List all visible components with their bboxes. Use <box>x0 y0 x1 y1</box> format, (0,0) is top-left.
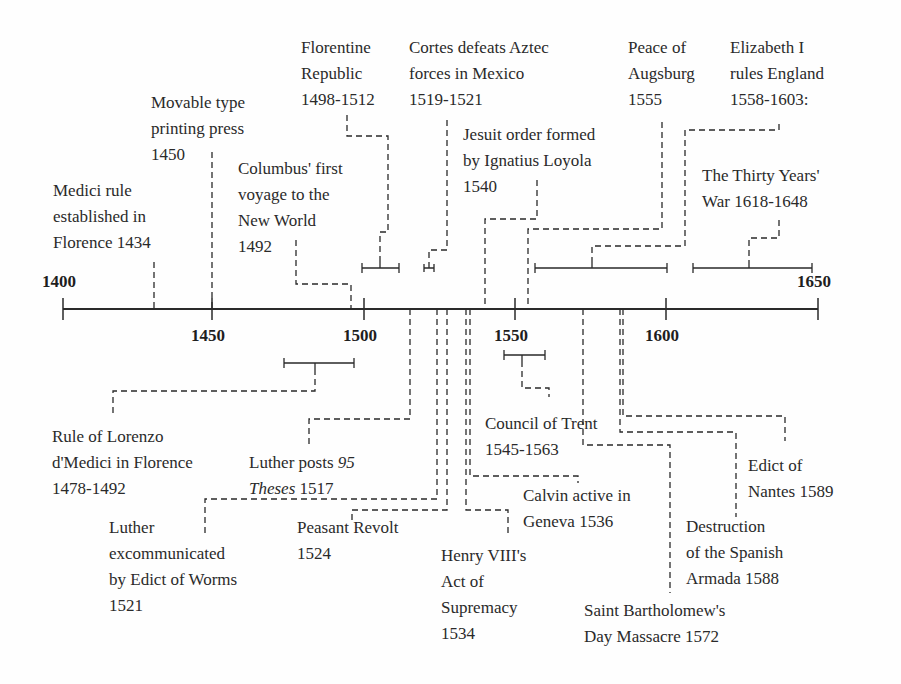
label-line: forces in Mexico <box>409 61 549 87</box>
label-line: Geneva 1536 <box>523 509 631 535</box>
label-line: 1492 <box>238 234 343 260</box>
event-label-cortes: Cortes defeats Aztec forces in Mexico 15… <box>409 35 549 113</box>
label-line: Jesuit order formed <box>463 122 595 148</box>
label-line: Armada 1588 <box>686 566 783 592</box>
label-line: 1545-1563 <box>485 437 597 463</box>
label-line: Supremacy <box>441 595 526 621</box>
label-line: Luther posts 95 <box>249 450 355 476</box>
label-line: printing press <box>151 116 245 142</box>
event-label-edict-of-worms: Luther excommunicated by Edict of Worms … <box>109 515 237 619</box>
label-line: Elizabeth I <box>730 35 824 61</box>
label-line: Edict of <box>748 453 833 479</box>
label-line: by Ignatius Loyola <box>463 148 595 174</box>
label-line: Florence 1434 <box>53 230 151 256</box>
event-label-medici: Medici rule established in Florence 1434 <box>53 178 151 256</box>
label-line: The Thirty Years' <box>702 163 820 189</box>
leader-lorenzo <box>113 369 315 414</box>
label-line: Peasant Revolt <box>297 515 399 541</box>
event-label-calvin: Calvin active in Geneva 1536 <box>523 483 631 535</box>
tick-label-1650: 1650 <box>797 272 831 292</box>
label-text: 1517 <box>295 479 333 498</box>
leader-cortes <box>429 120 447 262</box>
leader-thirty <box>749 220 779 262</box>
event-label-edict-of-nantes: Edict of Nantes 1589 <box>748 453 833 505</box>
label-line: Nantes 1589 <box>748 479 833 505</box>
event-label-augsburg: Peace of Augsburg 1555 <box>628 35 695 113</box>
range-bar-elizabeth <box>535 262 667 273</box>
label-line: 1521 <box>109 593 237 619</box>
event-label-elizabeth: Elizabeth I rules England 1558-1603: <box>730 35 824 113</box>
tick-label-1550: 1550 <box>494 326 528 346</box>
event-label-jesuit: Jesuit order formed by Ignatius Loyola 1… <box>463 122 595 200</box>
timeline-diagram: 1400 1450 1500 1550 1600 1650 Medici rul… <box>0 0 901 684</box>
label-line: established in <box>53 204 151 230</box>
range-bar-cortes <box>424 262 434 272</box>
leader-trent <box>522 361 549 397</box>
label-line: Rule of Lorenzo <box>52 424 193 450</box>
label-line: excommunicated <box>109 541 237 567</box>
event-label-florentine: Florentine Republic 1498-1512 <box>301 35 375 113</box>
label-line: 1519-1521 <box>409 87 549 113</box>
label-line: Medici rule <box>53 178 151 204</box>
label-line: 1524 <box>297 541 399 567</box>
range-bar-thirty-years <box>693 262 812 273</box>
label-line: Calvin active in <box>523 483 631 509</box>
label-line: 1450 <box>151 142 245 168</box>
event-label-thirty-years: The Thirty Years' War 1618-1648 <box>702 163 820 215</box>
label-line: of the Spanish <box>686 540 783 566</box>
range-bar-florentine <box>362 262 399 273</box>
label-line: 1540 <box>463 174 595 200</box>
label-line: Saint Bartholomew's <box>584 598 725 624</box>
label-line: voyage to the <box>238 182 343 208</box>
label-line: Cortes defeats Aztec <box>409 35 549 61</box>
label-line: 1498-1512 <box>301 87 375 113</box>
label-line: Republic <box>301 61 375 87</box>
event-label-spanish-armada: Destruction of the Spanish Armada 1588 <box>686 514 783 592</box>
label-line: Peace of <box>628 35 695 61</box>
event-label-council-of-trent: Council of Trent 1545-1563 <box>485 411 597 463</box>
label-line: 1555 <box>628 87 695 113</box>
event-label-printing: Movable type printing press 1450 <box>151 90 245 168</box>
label-line: Movable type <box>151 90 245 116</box>
label-line: 1478-1492 <box>52 476 193 502</box>
event-label-bartholomew: Saint Bartholomew's Day Massacre 1572 <box>584 598 725 650</box>
tick-label-1400: 1400 <box>42 272 76 292</box>
label-line: New World <box>238 208 343 234</box>
label-line: Henry VIII's <box>441 543 526 569</box>
label-line: 1534 <box>441 621 526 647</box>
label-text: Luther posts <box>249 453 338 472</box>
tick-label-1450: 1450 <box>191 326 225 346</box>
event-label-henry-viii: Henry VIII's Act of Supremacy 1534 <box>441 543 526 647</box>
event-label-lorenzo: Rule of Lorenzo d'Medici in Florence 147… <box>52 424 193 502</box>
label-line: 1558-1603: <box>730 87 824 113</box>
label-line: Theses 1517 <box>249 476 355 502</box>
tick-label-1500: 1500 <box>343 326 377 346</box>
label-line: Act of <box>441 569 526 595</box>
leader-florentine <box>347 115 388 262</box>
label-line: Augsburg <box>628 61 695 87</box>
label-line: Luther <box>109 515 237 541</box>
label-text-italic: 95 <box>338 453 355 472</box>
event-label-peasant-revolt: Peasant Revolt 1524 <box>297 515 399 567</box>
label-line: Florentine <box>301 35 375 61</box>
label-text-italic: Theses <box>249 479 295 498</box>
label-line: Day Massacre 1572 <box>584 624 725 650</box>
event-label-columbus: Columbus' first voyage to the New World … <box>238 156 343 260</box>
label-line: rules England <box>730 61 824 87</box>
leader-worms <box>205 309 437 537</box>
event-label-luther-95-theses: Luther posts 95 Theses 1517 <box>249 450 355 502</box>
label-line: Destruction <box>686 514 783 540</box>
tick-label-1600: 1600 <box>645 326 679 346</box>
range-bar-lorenzo <box>284 358 354 369</box>
label-line: Council of Trent <box>485 411 597 437</box>
label-line: Columbus' first <box>238 156 343 182</box>
label-line: d'Medici in Florence <box>52 450 193 476</box>
range-bar-trent <box>504 350 545 361</box>
label-line: by Edict of Worms <box>109 567 237 593</box>
label-line: War 1618-1648 <box>702 189 820 215</box>
